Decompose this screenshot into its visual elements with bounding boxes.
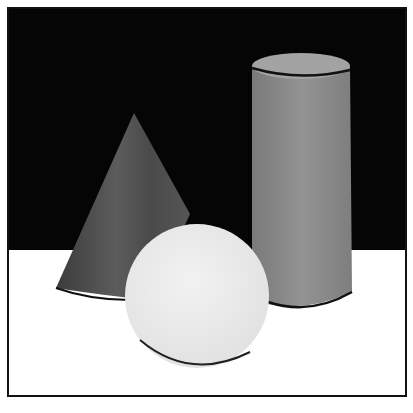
still-life-painting (0, 0, 413, 413)
cylinder (252, 66, 352, 306)
